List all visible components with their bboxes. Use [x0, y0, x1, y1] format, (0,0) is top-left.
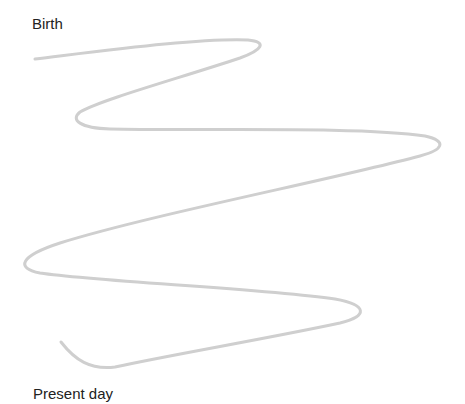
end-label: Present day [33, 386, 113, 401]
life-path [0, 0, 465, 404]
lifeline-diagram: Birth Present day [0, 0, 465, 404]
life-path-curve [25, 40, 440, 368]
